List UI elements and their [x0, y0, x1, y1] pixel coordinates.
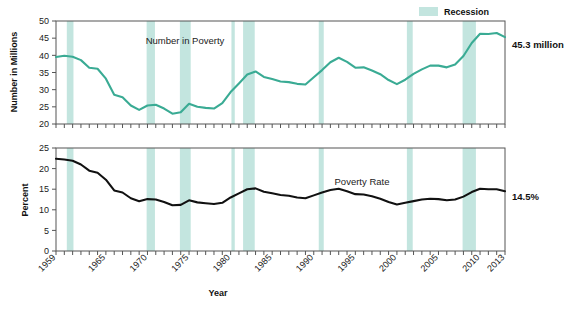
- recession-band: [231, 21, 234, 124]
- x-tick-label-group: 1965: [86, 252, 107, 273]
- recession-band: [67, 21, 74, 124]
- x-tick-label: 1959: [36, 252, 57, 273]
- y-axis-ticks-top: 20253035404550: [39, 16, 56, 129]
- poverty-rate-line: [56, 159, 505, 206]
- x-tick-label-group: 1985: [252, 252, 273, 273]
- y-tick-label: 10: [39, 205, 49, 215]
- y-axis-title-top: Number in Millions: [9, 32, 19, 113]
- poverty-rate-end-value: 14.5%: [512, 191, 539, 202]
- y-tick-label: 50: [39, 16, 49, 26]
- recession-band: [319, 148, 324, 251]
- y-axis-title-bottom: Percent: [20, 183, 30, 216]
- x-tick-label-group: 2005: [419, 252, 440, 273]
- x-tick-label: 2005: [419, 252, 440, 273]
- x-tick-label: 1980: [211, 252, 232, 273]
- y-tick-label: 30: [39, 85, 49, 95]
- x-tick-label-group: 1975: [169, 252, 190, 273]
- y-tick-label: 40: [39, 51, 49, 61]
- poverty-rate-label: Poverty Rate: [335, 176, 390, 187]
- recession-legend-label: Recession: [444, 7, 489, 17]
- x-tick-label-group: 2000: [377, 252, 398, 273]
- x-tick-label-group: 1970: [128, 252, 149, 273]
- x-tick-label-group: 1959: [36, 252, 57, 273]
- recession-band: [243, 148, 255, 251]
- x-tick-label: 2013: [485, 252, 506, 273]
- x-tick-label: 1985: [252, 252, 273, 273]
- x-tick-label-group: 2010: [460, 252, 481, 273]
- y-tick-label: 45: [39, 33, 49, 43]
- y-tick-label: 15: [39, 184, 49, 194]
- panel-poverty-rate: 0510152025 Percent Poverty Rate 14.5% 19…: [20, 143, 539, 298]
- recession-band: [231, 148, 234, 251]
- y-tick-label: 5: [44, 226, 49, 236]
- recession-band: [67, 148, 74, 251]
- x-axis-tick-labels: 1959196519701975198019851990199520002005…: [36, 252, 506, 273]
- number-in-poverty-line: [56, 33, 505, 114]
- recession-band: [407, 148, 413, 251]
- plot-frame-top: [56, 21, 505, 124]
- x-tick-label: 2010: [460, 252, 481, 273]
- y-tick-label: 25: [39, 102, 49, 112]
- x-tick-label: 1990: [294, 252, 315, 273]
- y-tick-label: 20: [39, 119, 49, 129]
- y-tick-label: 20: [39, 164, 49, 174]
- chart-figure: Recession 20253035404550 Number in Milli…: [0, 0, 588, 309]
- x-tick-label-group: 1990: [294, 252, 315, 273]
- y-axis-ticks-bottom: 0510152025: [39, 143, 56, 256]
- number-in-poverty-end-value: 45.3 million: [512, 39, 564, 50]
- number-in-poverty-label: Number in Poverty: [146, 35, 225, 46]
- poverty-chart-svg: Recession 20253035404550 Number in Milli…: [0, 0, 588, 309]
- x-tick-label: 2000: [377, 252, 398, 273]
- recession-bands-bottom: [67, 148, 476, 251]
- panel-number-in-poverty: 20253035404550 Number in Millions Number…: [9, 16, 564, 129]
- y-tick-label: 35: [39, 68, 49, 78]
- recession-legend-swatch: [419, 7, 438, 16]
- recession-band: [463, 21, 476, 124]
- legend: Recession: [419, 7, 489, 17]
- x-axis-ticks-top: [56, 124, 505, 128]
- y-tick-label: 25: [39, 143, 49, 153]
- x-tick-label-group: 1980: [211, 252, 232, 273]
- x-tick-label: 1995: [336, 252, 357, 273]
- recession-band: [463, 148, 476, 251]
- x-axis-title: Year: [208, 288, 228, 298]
- x-tick-label: 1970: [128, 252, 149, 273]
- recession-band: [407, 21, 413, 124]
- x-tick-label-group: 1995: [336, 252, 357, 273]
- x-axis-ticks-bottom: [56, 251, 505, 255]
- x-tick-label: 1975: [169, 252, 190, 273]
- x-tick-label-group: 2013: [485, 252, 506, 273]
- x-tick-label: 1965: [86, 252, 107, 273]
